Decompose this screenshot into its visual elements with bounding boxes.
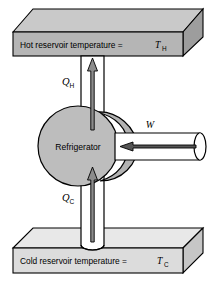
heat-out-label-group: Q H [62,76,75,89]
cold-reservoir-label: Cold reservoir temperature = [20,256,127,266]
hot-reservoir-label: Hot reservoir temperature = [20,40,123,50]
hot-slab-top-face [13,9,203,32]
refrigerator-diagram-figure: Hot reservoir temperature = T H Cold res… [0,0,215,283]
cold-reservoir-slab: Cold reservoir temperature = T C [13,228,203,273]
cold-reservoir-label-text: Cold reservoir temperature = [20,256,127,266]
work-label-group: W [146,119,156,130]
cold-reservoir-symbol-subscript: C [164,261,169,268]
refrigerator-schematic-svg: Hot reservoir temperature = T H Cold res… [0,0,215,283]
heat-in-label-group: Q C [62,192,75,205]
hot-reservoir-symbol: T [155,39,161,50]
hot-reservoir-symbol-subscript: H [162,45,167,52]
cold-reservoir-symbol: T [157,255,163,266]
work-symbol: W [146,119,156,130]
hot-temp-symbol: T [155,39,161,50]
cold-temp-symbol: T [157,255,163,266]
heat-out-subscript: H [70,82,75,89]
refrigerator-label: Refrigerator [55,142,101,152]
hot-reservoir-label-text: Hot reservoir temperature = [20,40,123,50]
cold-slab-top-face [13,228,203,248]
hot-reservoir-slab: Hot reservoir temperature = T H [13,9,203,56]
heat-in-subscript: C [70,198,75,205]
